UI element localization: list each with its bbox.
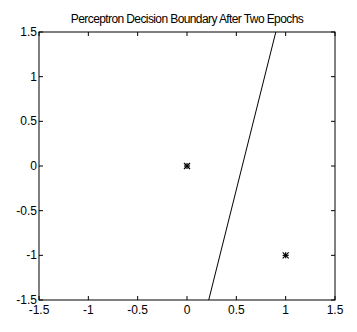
y-tick-label: -1	[26, 248, 37, 262]
x-tick-label: 0.5	[228, 303, 245, 317]
x-tick-label: 0	[184, 303, 191, 317]
y-tick-label: -1.5	[16, 293, 37, 307]
x-tick-label: 1.5	[327, 303, 344, 317]
x-tick-label: -0.5	[127, 303, 148, 317]
y-tick-label: 0.5	[20, 114, 37, 128]
y-tick-label: -0.5	[16, 204, 37, 218]
plot-area: -1.5-1-0.500.511.51.510.50-0.5-1-1.5	[16, 25, 343, 317]
decision-boundary-line	[209, 32, 276, 300]
x-tick-label: 1	[282, 303, 289, 317]
y-tick-label: 1	[30, 70, 37, 84]
y-tick-label: 1.5	[20, 25, 37, 39]
chart: Perceptron Decision Boundary After Two E…	[0, 0, 357, 332]
y-tick-label: 0	[30, 159, 37, 173]
x-tick-label: -1	[83, 303, 94, 317]
chart-title: Perceptron Decision Boundary After Two E…	[71, 12, 304, 26]
